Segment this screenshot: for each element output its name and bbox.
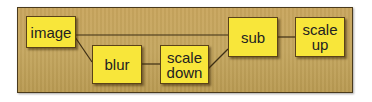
node-image: image xyxy=(26,16,76,48)
node-sub-label: sub xyxy=(241,30,265,45)
node-scale-down-label: scale down xyxy=(167,50,203,80)
node-scale-up: scale up xyxy=(295,17,345,57)
edge-scale-down-sub xyxy=(208,49,228,69)
node-sub: sub xyxy=(228,17,278,57)
node-image-label: image xyxy=(31,25,72,40)
node-blur-label: blur xyxy=(104,57,129,72)
node-scale-down: scale down xyxy=(160,45,209,84)
node-blur: blur xyxy=(92,45,142,84)
edge-image-blur xyxy=(75,37,92,62)
node-scale-up-label: scale up xyxy=(302,22,337,52)
